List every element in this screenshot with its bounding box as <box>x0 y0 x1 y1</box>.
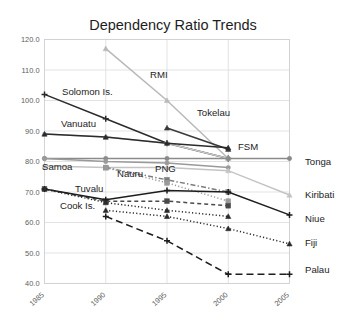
inline-label-cook-is: Cook Is. <box>60 200 95 211</box>
right-label-fiji: Fiji <box>305 237 317 248</box>
point-marker-2 <box>165 199 170 204</box>
y-tick-label-0: 40.0 <box>25 279 39 288</box>
point-marker-0 <box>103 165 108 170</box>
inline-label-vanuatu: Vanuatu <box>61 118 96 129</box>
point-marker-1 <box>104 159 108 163</box>
point-marker-1 <box>165 180 170 185</box>
point-marker-4 <box>287 156 291 160</box>
point-marker-2 <box>165 156 169 160</box>
chart-title: Dependency Ratio Trends <box>89 17 257 33</box>
point-marker-3 <box>226 156 230 160</box>
inline-label-fsm: FSM <box>238 141 258 152</box>
point-marker-3 <box>226 203 231 208</box>
inline-label-rmi: RMI <box>150 69 168 80</box>
y-tick-label-2: 60.0 <box>25 218 39 227</box>
inline-label-png: PNG <box>155 163 176 174</box>
right-label-niue: Niue <box>305 213 325 224</box>
inline-label-tokelau: Tokelau <box>197 107 230 118</box>
point-marker-2 <box>226 199 231 204</box>
dependency-ratio-chart: Dependency Ratio Trends 40.050.060.070.0… <box>0 0 346 322</box>
y-tick-label-1: 50.0 <box>25 249 39 258</box>
y-tick-label-6: 100.0 <box>21 96 40 105</box>
right-label-palau: Palau <box>305 264 330 275</box>
y-tick-label-7: 110.0 <box>22 66 40 75</box>
y-tick-label-4: 80.0 <box>25 157 39 166</box>
chart-canvas: Dependency Ratio Trends 40.050.060.070.0… <box>0 0 346 322</box>
y-tick-label-3: 70.0 <box>25 188 39 197</box>
right-label-tonga: Tonga <box>305 156 332 167</box>
inline-label-nauru: Nauru <box>117 168 143 179</box>
y-tick-label-8: 120.0 <box>21 35 40 44</box>
inline-label-samoa: Samoa <box>42 161 73 172</box>
inline-label-tuvalu: Tuvalu <box>75 183 103 194</box>
point-marker-0 <box>42 156 46 160</box>
inline-label-solomon-is: Solomon Is. <box>62 86 113 97</box>
y-tick-label-5: 90.0 <box>25 127 39 136</box>
right-label-kiribati: Kiribati <box>305 189 334 200</box>
